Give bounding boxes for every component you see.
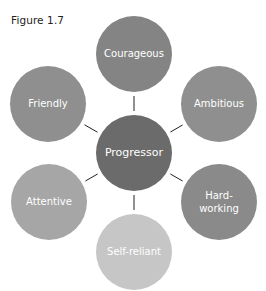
node-hard-working: Hard-working [181, 164, 257, 240]
node-self-reliant: Self-reliant [96, 214, 172, 290]
node-label: Ambitious [194, 98, 244, 109]
node-ambitious: Ambitious [181, 66, 257, 142]
node-friendly: Friendly [10, 66, 86, 142]
connector-line [170, 174, 182, 181]
radial-diagram: CourageousAmbitiousHard-workingSelf-reli… [0, 0, 266, 291]
node-attentive: Attentive [11, 164, 87, 240]
connector-line [85, 174, 97, 181]
connector-line [84, 125, 97, 132]
node-label: Self-reliant [107, 246, 161, 257]
connector-line [170, 125, 182, 132]
center-node: Progressor [96, 115, 172, 191]
node-label: Friendly [28, 98, 68, 109]
node-courageous: Courageous [96, 16, 172, 92]
node-label: working [199, 203, 239, 214]
node-label: Hard- [205, 190, 233, 201]
node-label: Courageous [104, 48, 164, 59]
node-label: Attentive [26, 196, 72, 207]
center-label: Progressor [105, 146, 164, 159]
